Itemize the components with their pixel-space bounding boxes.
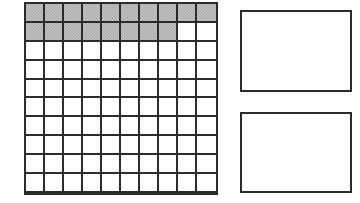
answer-box-bottom[interactable] bbox=[240, 112, 352, 193]
grid-cell-empty[interactable] bbox=[159, 174, 178, 193]
grid-cell-empty[interactable] bbox=[64, 42, 83, 61]
grid-cell-shaded[interactable] bbox=[26, 4, 45, 23]
grid-cell-empty[interactable] bbox=[140, 174, 159, 193]
grid-cell-empty[interactable] bbox=[159, 155, 178, 174]
grid-cell-empty[interactable] bbox=[121, 155, 140, 174]
grid-cell-empty[interactable] bbox=[197, 23, 216, 42]
grid-cell-empty[interactable] bbox=[197, 98, 216, 117]
grid-cell-empty[interactable] bbox=[83, 174, 102, 193]
grid-cell-empty[interactable] bbox=[102, 98, 121, 117]
grid-cell-empty[interactable] bbox=[178, 117, 197, 136]
grid-cell-empty[interactable] bbox=[26, 117, 45, 136]
grid-cell-shaded[interactable] bbox=[102, 4, 121, 23]
grid-cell-empty[interactable] bbox=[83, 155, 102, 174]
grid-cell-empty[interactable] bbox=[45, 80, 64, 99]
grid-cell-empty[interactable] bbox=[121, 98, 140, 117]
grid-cell-empty[interactable] bbox=[64, 98, 83, 117]
grid-cell-empty[interactable] bbox=[102, 155, 121, 174]
grid-cell-empty[interactable] bbox=[64, 155, 83, 174]
grid-cell-empty[interactable] bbox=[159, 98, 178, 117]
grid-cell-empty[interactable] bbox=[121, 80, 140, 99]
grid-cell-empty[interactable] bbox=[178, 155, 197, 174]
grid-cell-shaded[interactable] bbox=[45, 4, 64, 23]
grid-cell-empty[interactable] bbox=[140, 98, 159, 117]
grid-cell-empty[interactable] bbox=[26, 98, 45, 117]
grid-cell-empty[interactable] bbox=[45, 174, 64, 193]
grid-cell-empty[interactable] bbox=[140, 117, 159, 136]
grid-cell-empty[interactable] bbox=[64, 61, 83, 80]
grid-cell-empty[interactable] bbox=[64, 80, 83, 99]
grid-cell-empty[interactable] bbox=[83, 98, 102, 117]
grid-cell-empty[interactable] bbox=[159, 80, 178, 99]
grid-cell-empty[interactable] bbox=[45, 155, 64, 174]
grid-cell-empty[interactable] bbox=[102, 174, 121, 193]
grid-cell-empty[interactable] bbox=[121, 136, 140, 155]
grid-cell-empty[interactable] bbox=[159, 42, 178, 61]
grid-cell-empty[interactable] bbox=[140, 61, 159, 80]
grid-cell-shaded[interactable] bbox=[178, 4, 197, 23]
grid-cell-shaded[interactable] bbox=[83, 23, 102, 42]
grid-cell-empty[interactable] bbox=[197, 61, 216, 80]
grid-cell-empty[interactable] bbox=[102, 42, 121, 61]
grid-cell-empty[interactable] bbox=[178, 136, 197, 155]
grid-cell-shaded[interactable] bbox=[121, 23, 140, 42]
grid-cell-empty[interactable] bbox=[197, 174, 216, 193]
grid-cell-empty[interactable] bbox=[26, 42, 45, 61]
grid-cell-empty[interactable] bbox=[83, 42, 102, 61]
grid-cell-empty[interactable] bbox=[26, 174, 45, 193]
grid-cell-empty[interactable] bbox=[26, 80, 45, 99]
grid-cell-empty[interactable] bbox=[121, 117, 140, 136]
grid-cell-empty[interactable] bbox=[26, 136, 45, 155]
grid-cell-empty[interactable] bbox=[83, 80, 102, 99]
grid-cell-empty[interactable] bbox=[178, 61, 197, 80]
grid-cell-shaded[interactable] bbox=[45, 23, 64, 42]
grid-cell-empty[interactable] bbox=[45, 42, 64, 61]
grid-cell-empty[interactable] bbox=[197, 136, 216, 155]
grid-cell-shaded[interactable] bbox=[64, 4, 83, 23]
grid-cell-empty[interactable] bbox=[140, 80, 159, 99]
grid-cell-empty[interactable] bbox=[159, 136, 178, 155]
grid-cell-empty[interactable] bbox=[102, 61, 121, 80]
grid-cell-empty[interactable] bbox=[197, 80, 216, 99]
grid-cell-shaded[interactable] bbox=[83, 4, 102, 23]
grid-cell-empty[interactable] bbox=[121, 174, 140, 193]
grid-cell-empty[interactable] bbox=[197, 155, 216, 174]
grid-cell-empty[interactable] bbox=[83, 117, 102, 136]
grid-cell-empty[interactable] bbox=[45, 61, 64, 80]
grid-cell-empty[interactable] bbox=[140, 42, 159, 61]
grid-cell-empty[interactable] bbox=[45, 117, 64, 136]
grid-cell-empty[interactable] bbox=[140, 136, 159, 155]
grid-cell-empty[interactable] bbox=[83, 61, 102, 80]
grid-cell-empty[interactable] bbox=[178, 42, 197, 61]
grid-cell-shaded[interactable] bbox=[102, 23, 121, 42]
grid-cell-shaded[interactable] bbox=[159, 4, 178, 23]
grid-cell-empty[interactable] bbox=[64, 174, 83, 193]
grid-cell-empty[interactable] bbox=[159, 117, 178, 136]
grid-cell-empty[interactable] bbox=[45, 136, 64, 155]
grid-cell-empty[interactable] bbox=[121, 61, 140, 80]
grid-cell-shaded[interactable] bbox=[197, 4, 216, 23]
grid-cell-empty[interactable] bbox=[83, 136, 102, 155]
grid-cell-shaded[interactable] bbox=[64, 23, 83, 42]
grid-cell-empty[interactable] bbox=[178, 23, 197, 42]
grid-cell-shaded[interactable] bbox=[121, 4, 140, 23]
grid-cell-empty[interactable] bbox=[102, 136, 121, 155]
grid-cell-empty[interactable] bbox=[178, 80, 197, 99]
grid-cell-shaded[interactable] bbox=[159, 23, 178, 42]
grid-cell-empty[interactable] bbox=[45, 98, 64, 117]
grid-cell-empty[interactable] bbox=[121, 42, 140, 61]
grid-cell-empty[interactable] bbox=[64, 117, 83, 136]
grid-cell-empty[interactable] bbox=[26, 155, 45, 174]
grid-cell-empty[interactable] bbox=[140, 155, 159, 174]
answer-box-top[interactable] bbox=[240, 10, 352, 92]
grid-cell-empty[interactable] bbox=[178, 98, 197, 117]
grid-cell-empty[interactable] bbox=[102, 117, 121, 136]
grid-cell-empty[interactable] bbox=[64, 136, 83, 155]
grid-cell-empty[interactable] bbox=[26, 61, 45, 80]
grid-cell-empty[interactable] bbox=[178, 174, 197, 193]
grid-cell-empty[interactable] bbox=[102, 80, 121, 99]
grid-cell-empty[interactable] bbox=[197, 42, 216, 61]
grid-cell-shaded[interactable] bbox=[140, 4, 159, 23]
grid-cell-empty[interactable] bbox=[197, 117, 216, 136]
grid-cell-empty[interactable] bbox=[159, 61, 178, 80]
